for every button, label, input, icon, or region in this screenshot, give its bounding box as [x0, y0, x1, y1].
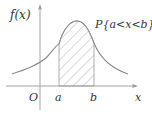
shaded-region-label: P{a<x<b}	[94, 18, 152, 31]
lower-bound-label: a	[55, 91, 62, 104]
x-axis-label: x	[135, 91, 142, 104]
origin-label: O	[29, 91, 38, 104]
density-diagram: f(x) P{a<x<b} O a b x	[0, 0, 152, 117]
upper-bound-label: b	[90, 91, 97, 104]
y-axis-label: f(x)	[9, 8, 31, 22]
